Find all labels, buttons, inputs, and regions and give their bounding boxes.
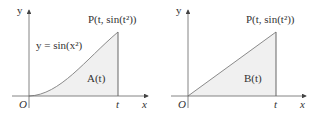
origin-label: O [178,99,186,110]
point-label: P(t, sin(t²)) [88,14,137,25]
y-axis-label: y [176,5,182,16]
point-label: P(t, sin(t²)) [246,14,295,25]
t-label: t [274,99,277,110]
origin-label: O [19,99,27,110]
area-label: A(t) [87,73,105,84]
x-axis-label: x [300,99,305,110]
curve-label: y = sin(x²) [36,40,82,51]
area-label: B(t) [244,73,262,84]
t-label: t [116,99,119,110]
x-axis-label: x [142,99,147,110]
y-axis-label: y [17,5,23,16]
